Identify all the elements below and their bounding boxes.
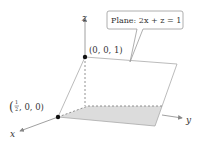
plane-diagram: z y x (0, 0, 1) ( 1 2 , 0, 0) Plane: 2x …	[0, 0, 207, 149]
fraction-numerator: 1	[15, 99, 18, 105]
y-axis-label: y	[185, 115, 192, 125]
fraction-denominator: 2	[15, 106, 18, 112]
xy-trace-shade	[58, 106, 162, 126]
point-z-intercept-label: (0, 0, 1)	[89, 45, 123, 55]
x-axis	[20, 117, 58, 131]
point-z-intercept	[83, 55, 87, 59]
x-axis-label: x	[10, 129, 15, 139]
svg-text:(: (	[9, 100, 14, 114]
point-x-intercept-label: ( 1 2 , 0, 0)	[9, 99, 44, 114]
callout-text: Plane: 2x + z = 1	[111, 16, 181, 25]
y-axis	[162, 115, 182, 118]
z-axis-label: z	[81, 13, 87, 23]
point-x-intercept	[56, 115, 60, 119]
svg-text:, 0, 0): , 0, 0)	[19, 102, 44, 112]
